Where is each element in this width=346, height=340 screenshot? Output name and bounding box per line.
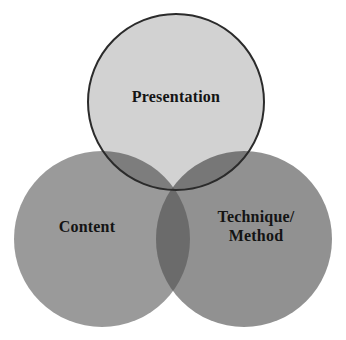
label-presentation: Presentation bbox=[96, 88, 256, 107]
label-content: Content bbox=[24, 218, 150, 237]
venn-diagram-graphic bbox=[0, 0, 346, 340]
label-technique-method-line1: Technique/ bbox=[218, 208, 295, 225]
venn-diagram: Presentation Content Technique/Method bbox=[0, 0, 346, 340]
label-technique-method-line2: Method bbox=[229, 227, 284, 244]
label-technique-method: Technique/Method bbox=[192, 208, 320, 245]
